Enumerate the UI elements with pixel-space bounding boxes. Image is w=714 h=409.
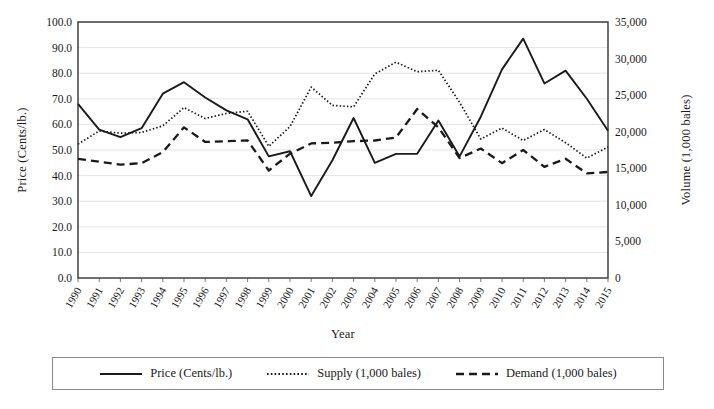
x-axis-tick-label: 1996 xyxy=(190,285,212,310)
legend-swatch-solid-icon xyxy=(99,369,143,379)
x-axis-tick-label: 2008 xyxy=(444,285,466,310)
y-axis-tick-label: 80.0 xyxy=(52,67,72,79)
x-axis-tick-label: 1999 xyxy=(253,285,275,310)
legend-label-demand: Demand (1,000 bales) xyxy=(506,366,617,381)
y2-axis-title: Volume (1,000 bales) xyxy=(679,94,693,205)
legend-item-price[interactable]: Price (Cents/lb.) xyxy=(99,366,232,381)
x-axis-tick-label: 1995 xyxy=(168,285,190,310)
x-axis-tick-label: 2010 xyxy=(486,285,508,310)
x-axis-tick-label: 1993 xyxy=(126,285,148,310)
x-axis-tick-label: 2000 xyxy=(274,285,296,310)
x-axis-tick-label: 2014 xyxy=(571,285,593,310)
x-axis-tick-label: 2001 xyxy=(296,285,317,310)
y-axis-tick-label: 50.0 xyxy=(52,144,72,156)
y-axis-tick-label: 100.0 xyxy=(46,16,72,28)
y-axis-tick-label: 40.0 xyxy=(52,170,72,182)
legend-label-supply: Supply (1,000 bales) xyxy=(317,366,421,381)
y2-axis-tick-label: 35,000 xyxy=(615,16,647,29)
x-axis-tick-label: 1997 xyxy=(211,285,233,310)
legend-item-demand[interactable]: Demand (1,000 bales) xyxy=(455,366,617,381)
y2-axis-tick-label: 10,000 xyxy=(615,199,647,212)
x-axis-tick-label: 2009 xyxy=(465,285,487,310)
x-axis-tick-label: 2005 xyxy=(380,285,402,310)
y2-axis-tick-label: 25,000 xyxy=(615,89,647,102)
x-axis-title: Year xyxy=(331,327,355,341)
cotton-price-supply-demand-chart: 0.010.020.030.040.050.060.070.080.090.01… xyxy=(0,0,714,409)
legend-swatch-dotted-icon xyxy=(266,369,310,379)
chart-legend: Price (Cents/lb.) Supply (1,000 bales) D… xyxy=(52,357,664,390)
x-axis-tick-label: 1994 xyxy=(147,285,169,310)
x-axis-tick-label: 2006 xyxy=(402,285,424,310)
x-axis-tick-label: 2013 xyxy=(550,285,572,310)
y-axis-tick-label: 70.0 xyxy=(52,93,72,105)
legend-item-supply[interactable]: Supply (1,000 bales) xyxy=(266,366,421,381)
y2-axis-tick-label: 15,000 xyxy=(615,162,647,175)
x-axis-tick-label: 2007 xyxy=(423,285,445,310)
y2-axis-tick-label: 20,000 xyxy=(615,126,647,139)
y-axis-tick-label: 10.0 xyxy=(52,246,72,258)
y-axis-tick-label: 20.0 xyxy=(52,221,72,233)
y-axis-tick-label: 0.0 xyxy=(58,272,73,284)
x-axis-tick-label: 2015 xyxy=(592,285,614,310)
y-axis-tick-label: 60.0 xyxy=(52,118,72,130)
x-axis-tick-label: 1990 xyxy=(62,285,84,310)
y2-axis-tick-label: 0 xyxy=(615,272,621,284)
legend-swatch-dashed-icon xyxy=(455,369,499,379)
y2-axis-tick-label: 5,000 xyxy=(615,235,641,248)
x-axis-tick-label: 2003 xyxy=(338,285,360,310)
chart-canvas: 0.010.020.030.040.050.060.070.080.090.01… xyxy=(0,0,714,409)
x-axis-tick-label: 2011 xyxy=(508,285,529,310)
x-axis-tick-label: 1998 xyxy=(232,285,254,310)
x-axis-tick-label: 1992 xyxy=(105,285,126,310)
y2-axis-tick-label: 30,000 xyxy=(615,53,647,66)
x-axis-tick-label: 1991 xyxy=(84,285,105,310)
legend-label-price: Price (Cents/lb.) xyxy=(150,366,232,381)
series-line-price xyxy=(78,39,608,196)
y-axis-title: Price (Cents/lb.) xyxy=(15,107,29,192)
x-axis-tick-label: 2002 xyxy=(317,285,338,310)
y-axis-tick-label: 90.0 xyxy=(52,42,72,54)
x-axis-tick-label: 2012 xyxy=(529,285,550,310)
x-axis-tick-label: 2004 xyxy=(359,285,381,310)
y-axis-tick-label: 30.0 xyxy=(52,195,72,207)
series-line-supply xyxy=(78,62,608,158)
